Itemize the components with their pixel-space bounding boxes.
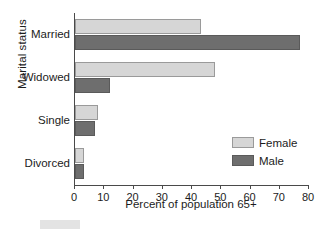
category-label-group: Married Widowed Single Divorced xyxy=(22,0,70,232)
x-axis-tick xyxy=(74,185,75,189)
bar-divorced-female xyxy=(75,148,84,164)
x-axis-tick xyxy=(162,185,163,189)
category-label-single: Single xyxy=(38,115,70,127)
bar-single-male xyxy=(75,121,95,137)
x-axis-title: Percent of population 65+ xyxy=(74,198,308,210)
category-label-widowed: Widowed xyxy=(23,72,70,84)
category-label-married: Married xyxy=(31,29,70,41)
x-axis-tick xyxy=(191,185,192,189)
x-axis-tick xyxy=(103,185,104,189)
bar-widowed-male xyxy=(75,78,110,94)
bar-married-male xyxy=(75,35,300,51)
legend: Female Male xyxy=(232,135,297,171)
legend-swatch-female-icon xyxy=(232,137,254,148)
x-axis-tick xyxy=(308,185,309,189)
x-axis-tick xyxy=(220,185,221,189)
legend-swatch-male-icon xyxy=(232,155,254,166)
bar-widowed-female xyxy=(75,62,215,78)
bar-divorced-male xyxy=(75,164,84,180)
legend-label-female: Female xyxy=(259,137,297,149)
bar-married-female xyxy=(75,19,201,35)
category-label-divorced: Divorced xyxy=(25,158,70,170)
legend-label-male: Male xyxy=(259,155,284,167)
bar-single-female xyxy=(75,105,98,121)
x-axis-tick xyxy=(133,185,134,189)
bar-chart: Marital status Married Widowed Single Di… xyxy=(0,0,328,232)
x-axis-tick xyxy=(250,185,251,189)
x-axis-tick xyxy=(279,185,280,189)
legend-item-female: Female xyxy=(232,135,297,150)
legend-item-male: Male xyxy=(232,153,297,168)
scan-artifact xyxy=(40,220,80,229)
